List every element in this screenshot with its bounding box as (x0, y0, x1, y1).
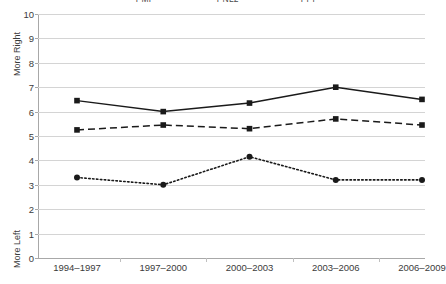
series-line-PPP (77, 157, 422, 185)
series-PNL2 (74, 116, 425, 133)
y-tick-label-5: 5 (14, 131, 34, 142)
series-PPP (74, 154, 425, 188)
x-tick-mark-4 (379, 258, 380, 262)
x-tick-label-1: 1997–2000 (139, 262, 187, 273)
data-point-PPP-0[interactable] (74, 174, 80, 180)
legend-label-2: PPP (301, 0, 319, 4)
series-PMP (74, 84, 425, 114)
data-point-PMP-2[interactable] (247, 100, 253, 106)
gridline-0 (38, 258, 425, 259)
data-point-PPP-1[interactable] (160, 182, 166, 188)
x-tick-mark-2 (206, 258, 207, 262)
data-point-PPP-3[interactable] (333, 177, 339, 183)
data-point-PMP-3[interactable] (333, 84, 339, 90)
data-point-PMP-1[interactable] (160, 109, 166, 115)
x-tick-label-2: 2000–2003 (226, 262, 274, 273)
y-tick-label-4: 4 (14, 155, 34, 166)
y-tick-label-10: 10 (14, 9, 34, 20)
x-tick-mark-3 (293, 258, 294, 262)
legend-entry-0[interactable]: PMP (110, 0, 155, 4)
data-point-PNL2-2[interactable] (247, 126, 253, 132)
series-line-PMP (77, 87, 422, 111)
x-tick-label-4: 2006–2009 (398, 262, 446, 273)
data-point-PNL2-4[interactable] (419, 122, 425, 128)
data-point-PMP-0[interactable] (74, 98, 80, 104)
legend-entry-1[interactable]: PNL2 (191, 0, 239, 4)
chart-legend: PMP PNL2 PPP (0, 0, 428, 5)
y-tick-label-3: 3 (14, 179, 34, 190)
data-point-PNL2-1[interactable] (160, 122, 166, 128)
y-tick-label-2: 2 (14, 204, 34, 215)
y-tick-label-6: 6 (14, 106, 34, 117)
data-point-PPP-2[interactable] (247, 154, 253, 160)
y-tick-label-7: 7 (14, 82, 34, 93)
x-axis-labels: 1994–19971997–20002000–20032003–20062006… (38, 262, 425, 280)
x-tick-mark-1 (120, 258, 121, 262)
data-point-PNL2-3[interactable] (333, 116, 339, 122)
legend-entry-2[interactable]: PPP (275, 0, 319, 4)
data-point-PPP-4[interactable] (419, 177, 425, 183)
legend-label-1: PNL2 (217, 0, 239, 4)
x-tick-label-3: 2003–2006 (312, 262, 360, 273)
series-layer (38, 14, 425, 258)
y-tick-label-9: 9 (14, 33, 34, 44)
y-tick-label-0: 0 (14, 253, 34, 264)
data-point-PMP-4[interactable] (419, 97, 425, 103)
y-tick-mark-0 (35, 258, 38, 259)
y-tick-label-1: 1 (14, 228, 34, 239)
y-tick-label-8: 8 (14, 57, 34, 68)
data-point-PNL2-0[interactable] (74, 127, 80, 133)
legend-label-0: PMP (136, 0, 155, 4)
x-tick-label-0: 1994–1997 (53, 262, 101, 273)
